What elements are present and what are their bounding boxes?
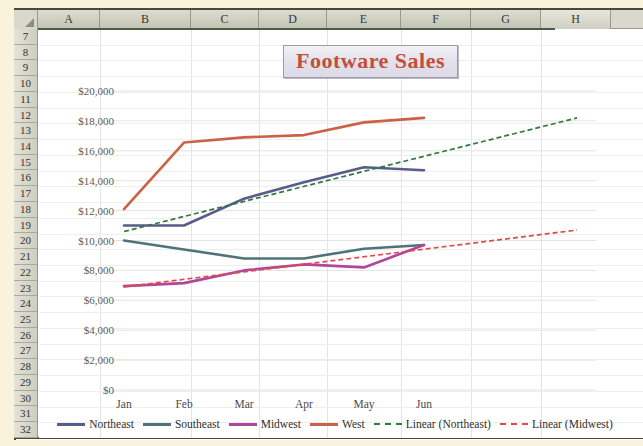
- row-header-30[interactable]: 30: [14, 391, 37, 407]
- column-header-G[interactable]: G: [471, 10, 541, 29]
- legend-item[interactable]: Midwest: [229, 418, 301, 430]
- legend-label: Southeast: [175, 418, 220, 430]
- row-header-21[interactable]: 21: [14, 249, 37, 265]
- legend-item[interactable]: Northeast: [57, 418, 134, 430]
- legend-item[interactable]: Southeast: [143, 418, 220, 430]
- select-all-triangle-icon[interactable]: [14, 10, 38, 29]
- chart-series-midwest: [124, 245, 424, 286]
- column-header-A[interactable]: A: [38, 10, 100, 29]
- column-header-D[interactable]: D: [259, 10, 327, 29]
- column-header-C[interactable]: C: [191, 10, 259, 29]
- x-axis-tick-label: Apr: [295, 398, 313, 410]
- x-axis-tick-label: May: [353, 398, 374, 410]
- column-header-B[interactable]: B: [100, 10, 191, 29]
- legend-swatch-northeast: [57, 423, 85, 426]
- chart-trendline-linear-midwest: [124, 230, 577, 287]
- row-header-13[interactable]: 13: [14, 123, 37, 139]
- legend-label: Linear (Midwest): [532, 418, 613, 430]
- row-header-12[interactable]: 12: [14, 108, 37, 124]
- chart-plot-area: [40, 30, 596, 436]
- legend-label: Northeast: [89, 418, 134, 430]
- chart-series-northeast: [124, 167, 424, 225]
- row-header-9[interactable]: 9: [14, 60, 37, 76]
- row-header-11[interactable]: 11: [14, 92, 37, 108]
- x-axis-tick-label: Jun: [416, 398, 432, 410]
- legend-swatch-southeast: [143, 423, 171, 426]
- legend-label: West: [342, 418, 365, 430]
- chart-trendline-linear-northeast: [124, 118, 577, 232]
- row-header-26[interactable]: 26: [14, 328, 37, 344]
- x-axis-tick-label: Feb: [175, 398, 192, 410]
- row-header-23[interactable]: 23: [14, 281, 37, 297]
- legend-swatch-midwest: [229, 423, 257, 426]
- legend-label: Linear (Northeast): [406, 418, 491, 430]
- row-header-8[interactable]: 8: [14, 45, 37, 61]
- row-header-17[interactable]: 17: [14, 186, 37, 202]
- row-header-19[interactable]: 19: [14, 218, 37, 234]
- chart-series-southeast: [124, 241, 424, 259]
- row-header-7[interactable]: 7: [14, 29, 37, 45]
- spreadsheet-window: ABCDEFGH 7891011121314151617181920212223…: [0, 0, 643, 446]
- legend-item[interactable]: Linear (Northeast): [374, 418, 491, 430]
- row-header-27[interactable]: 27: [14, 343, 37, 359]
- legend-swatch-linear-midwest: [500, 423, 528, 425]
- row-header-22[interactable]: 22: [14, 265, 37, 281]
- sales-chart[interactable]: Footware Sales $0$2,000$4,000$6,000$8,00…: [40, 30, 596, 436]
- column-header-row[interactable]: ABCDEFGH: [14, 10, 643, 29]
- row-header-column[interactable]: 7891011121314151617181920212223242526272…: [14, 29, 38, 438]
- x-axis-tick-label: Mar: [234, 398, 253, 410]
- legend-item[interactable]: West: [310, 418, 365, 430]
- x-axis-tick-label: Jan: [116, 398, 131, 410]
- row-header-29[interactable]: 29: [14, 375, 37, 391]
- legend-label: Midwest: [261, 418, 301, 430]
- column-header-E[interactable]: E: [327, 10, 401, 29]
- row-header-25[interactable]: 25: [14, 312, 37, 328]
- legend-item[interactable]: Linear (Midwest): [500, 418, 613, 430]
- column-header-F[interactable]: F: [401, 10, 471, 29]
- legend-swatch-linear-northeast: [374, 423, 402, 425]
- row-header-32[interactable]: 32: [14, 422, 37, 438]
- chart-series-west: [124, 118, 424, 209]
- legend-swatch-west: [310, 423, 338, 426]
- chart-legend[interactable]: NortheastSoutheastMidwestWestLinear (Nor…: [40, 415, 630, 433]
- row-header-28[interactable]: 28: [14, 359, 37, 375]
- row-header-16[interactable]: 16: [14, 170, 37, 186]
- row-header-20[interactable]: 20: [14, 233, 37, 249]
- row-header-24[interactable]: 24: [14, 296, 37, 312]
- row-header-18[interactable]: 18: [14, 202, 37, 218]
- row-header-10[interactable]: 10: [14, 76, 37, 92]
- row-header-31[interactable]: 31: [14, 406, 37, 422]
- row-header-14[interactable]: 14: [14, 139, 37, 155]
- column-header-H[interactable]: H: [541, 10, 611, 29]
- row-header-15[interactable]: 15: [14, 155, 37, 171]
